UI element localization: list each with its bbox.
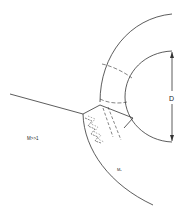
mach-label: M>>1 <box>27 136 39 141</box>
lower-shock-arc <box>83 114 153 205</box>
diagram-canvas: D M>>1 M₁ <box>0 0 183 219</box>
diameter-label: D <box>169 95 174 102</box>
dashed-oblique-2 <box>108 107 121 140</box>
junction-line-a <box>83 105 100 114</box>
region-label: M₁ <box>117 167 122 172</box>
short-stub <box>124 118 133 128</box>
arrow-up-icon <box>170 52 174 58</box>
body-semicircle <box>125 51 172 142</box>
dashed-line-middle <box>100 99 127 103</box>
incident-line <box>10 94 83 114</box>
junction-line-b <box>100 105 133 118</box>
zigzag-marks-2 <box>88 116 104 142</box>
outer-shock-arc <box>100 14 172 102</box>
arrow-down-icon <box>170 135 174 141</box>
dashed-oblique-1 <box>103 108 113 137</box>
